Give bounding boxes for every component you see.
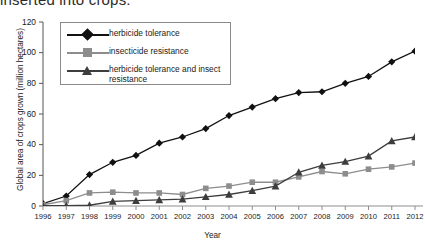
diamond-data-point xyxy=(179,133,186,140)
x-tick-label: 2010 xyxy=(356,212,382,221)
x-tick-label: 2005 xyxy=(239,212,265,221)
y-tick-label: 40 xyxy=(12,139,36,149)
triangle-data-point xyxy=(365,152,373,159)
square-data-point xyxy=(412,160,415,166)
x-tick-label: 2012 xyxy=(402,212,425,221)
square-data-point xyxy=(366,166,372,172)
square-data-point xyxy=(87,190,93,196)
x-tick-label: 1996 xyxy=(30,212,56,221)
square-data-point xyxy=(226,183,232,189)
y-tick-label: 80 xyxy=(12,78,36,88)
diamond-data-point xyxy=(272,95,279,102)
chart-legend: herbicide tolerance insecticide resistan… xyxy=(60,22,231,85)
diamond-data-point xyxy=(365,73,372,80)
diamond-data-point xyxy=(156,140,163,147)
legend-item: herbicide tolerance and insect resistanc… xyxy=(67,64,224,84)
square-data-point xyxy=(249,179,255,185)
diamond-data-point xyxy=(388,58,395,65)
x-tick-label: 1997 xyxy=(53,212,79,221)
x-tick-label: 2001 xyxy=(146,212,172,221)
legend-label: insecticide resistance xyxy=(109,46,189,56)
y-tick-label: 60 xyxy=(12,109,36,119)
y-tick-label: 0 xyxy=(12,201,36,211)
square-data-point xyxy=(389,164,395,170)
legend-item: insecticide resistance xyxy=(67,46,224,58)
x-tick-label: 2000 xyxy=(123,212,149,221)
x-tick-label: 2009 xyxy=(332,212,358,221)
y-tick-label: 100 xyxy=(12,47,36,57)
chart-figure: inserted into crops. Global area of crop… xyxy=(0,0,425,245)
legend-item: herbicide tolerance xyxy=(67,28,224,40)
square-data-point xyxy=(133,190,139,196)
y-tick-label: 20 xyxy=(12,170,36,180)
x-tick-label: 1998 xyxy=(77,212,103,221)
diamond-data-point xyxy=(411,48,415,55)
y-tick-label: 120 xyxy=(12,17,36,27)
diamond-data-point xyxy=(225,112,232,119)
diamond-marker-icon xyxy=(67,29,109,40)
legend-label: herbicide tolerance and insect resistanc… xyxy=(109,64,224,84)
x-tick-label: 2002 xyxy=(170,212,196,221)
square-marker-icon xyxy=(67,47,109,58)
x-tick-label: 1999 xyxy=(100,212,126,221)
square-data-point xyxy=(319,169,325,175)
x-tick-label: 2011 xyxy=(379,212,405,221)
diamond-data-point xyxy=(342,80,349,87)
x-tick-label: 2006 xyxy=(263,212,289,221)
triangle-marker-icon xyxy=(67,65,109,76)
square-data-point xyxy=(110,189,116,195)
legend-label: herbicide tolerance xyxy=(109,28,180,38)
diamond-data-point xyxy=(249,104,256,111)
x-tick-label: 2007 xyxy=(286,212,312,221)
diamond-data-point xyxy=(202,125,209,132)
square-data-point xyxy=(342,171,348,177)
x-tick-label: 2004 xyxy=(216,212,242,221)
diamond-data-point xyxy=(318,88,325,95)
square-data-point xyxy=(203,186,209,192)
diamond-data-point xyxy=(295,89,302,96)
x-tick-label: 2003 xyxy=(193,212,219,221)
diamond-data-point xyxy=(132,152,139,159)
x-tick-label: 2008 xyxy=(309,212,335,221)
diamond-data-point xyxy=(109,159,116,166)
square-data-point xyxy=(156,190,162,196)
